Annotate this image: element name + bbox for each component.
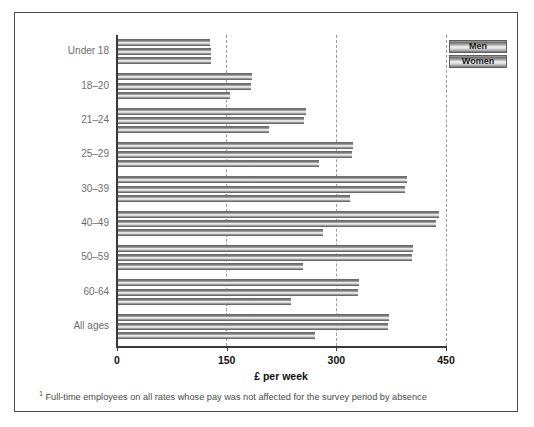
category-label-2: 21–24 bbox=[21, 113, 109, 124]
bar-men-6 bbox=[117, 245, 413, 252]
category-label-4: 30–39 bbox=[21, 182, 109, 193]
legend-label-men: Men bbox=[449, 40, 507, 53]
bar-all-6 bbox=[117, 254, 412, 261]
x-axis-title: £ per week bbox=[116, 370, 446, 382]
category-label-5: 40–49 bbox=[21, 216, 109, 227]
bar-women-8 bbox=[117, 332, 315, 339]
bar-women-3 bbox=[117, 160, 319, 167]
bar-women-1 bbox=[117, 92, 230, 99]
bar-men-7 bbox=[117, 279, 359, 286]
category-label-8: All ages bbox=[21, 319, 109, 330]
footnote-marker: 1 bbox=[39, 390, 43, 397]
legend-item-women[interactable]: Women bbox=[449, 55, 507, 68]
bar-all-0 bbox=[117, 48, 211, 55]
bar-men-5 bbox=[117, 211, 439, 218]
category-label-6: 50–59 bbox=[21, 251, 109, 262]
bar-men-1 bbox=[117, 73, 252, 80]
bar-men-4 bbox=[117, 176, 407, 183]
category-label-1: 18–20 bbox=[21, 79, 109, 90]
footnote-text: Full-time employees on all rates whose p… bbox=[45, 392, 426, 402]
gridline-450 bbox=[446, 35, 447, 346]
x-tick-450 bbox=[446, 346, 447, 351]
bar-women-7 bbox=[117, 298, 291, 305]
bar-women-2 bbox=[117, 126, 269, 133]
chart-legend: Men Women bbox=[449, 40, 507, 70]
x-tick-0 bbox=[117, 346, 118, 351]
chart-figure-frame: Under 1818–2021–2425–2930–3940–4950–5960… bbox=[14, 12, 518, 412]
x-tick-150 bbox=[227, 346, 228, 351]
bar-women-4 bbox=[117, 195, 350, 202]
legend-item-men[interactable]: Men bbox=[449, 40, 507, 53]
bar-women-0 bbox=[117, 57, 211, 64]
category-label-7: 60-64 bbox=[21, 285, 109, 296]
category-label-3: 25–29 bbox=[21, 148, 109, 159]
bar-men-0 bbox=[117, 39, 210, 46]
bar-men-3 bbox=[117, 142, 353, 149]
bar-men-8 bbox=[117, 314, 389, 321]
x-tick-label-0: 0 bbox=[114, 354, 120, 366]
bar-all-1 bbox=[117, 83, 251, 90]
bar-all-5 bbox=[117, 220, 436, 227]
x-tick-label-450: 450 bbox=[437, 354, 455, 366]
x-axis-line bbox=[116, 346, 446, 348]
bar-all-8 bbox=[117, 323, 388, 330]
bar-all-7 bbox=[117, 289, 358, 296]
x-tick-label-300: 300 bbox=[328, 354, 346, 366]
bar-men-2 bbox=[117, 108, 306, 115]
x-tick-label-150: 150 bbox=[218, 354, 236, 366]
bar-all-2 bbox=[117, 117, 304, 124]
bar-chart-plot-area: Under 1818–2021–2425–2930–3940–4950–5960… bbox=[15, 13, 519, 413]
bar-women-6 bbox=[117, 263, 303, 270]
bar-women-5 bbox=[117, 229, 323, 236]
footnote: 1 Full-time employees on all rates whose… bbox=[39, 387, 501, 404]
y-axis-line bbox=[116, 35, 118, 346]
category-label-0: Under 18 bbox=[21, 45, 109, 56]
x-tick-300 bbox=[336, 346, 337, 351]
legend-label-women: Women bbox=[449, 55, 507, 68]
bar-all-3 bbox=[117, 151, 352, 158]
bar-all-4 bbox=[117, 186, 405, 193]
